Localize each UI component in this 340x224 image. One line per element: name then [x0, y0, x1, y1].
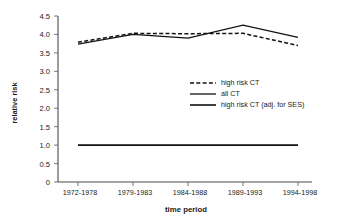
series-line-high-risk-ct: [78, 33, 298, 45]
y-tick-label: 1.5: [39, 123, 50, 132]
x-tick-label: 1979-1983: [118, 188, 152, 197]
y-tick-label: 1.0: [39, 141, 50, 150]
x-axis-ticks: [78, 182, 298, 186]
series-line-all-ct: [78, 25, 298, 44]
x-axis-tick-labels: 1972-1978 1979-1983 1984-1988 1989-1993 …: [63, 188, 317, 197]
x-tick-label: 1972-1978: [63, 188, 97, 197]
x-axis-title: time period: [165, 205, 207, 214]
y-tick-label: 4.0: [39, 30, 50, 39]
chart-figure: relative risk 0 0.5 1.0 1.5 2.0 2.5 3.0 …: [0, 0, 340, 224]
y-tick-label: 0.5: [39, 160, 50, 169]
legend-label-high-risk-ct: high risk CT: [221, 78, 260, 87]
plot-series-group: [78, 25, 298, 145]
chart-canvas: relative risk 0 0.5 1.0 1.5 2.0 2.5 3.0 …: [0, 0, 340, 224]
legend-label-all-ct: all CT: [221, 89, 240, 98]
y-tick-label: 0: [46, 178, 50, 187]
legend-label-high-risk-ct-adj-ses: high risk CT (adj. for SES): [221, 100, 304, 109]
x-tick-label: 1994-1998: [283, 188, 317, 197]
y-tick-label: 4.5: [39, 12, 50, 21]
chart-legend: high risk CT all CT high risk CT (adj. f…: [190, 78, 304, 109]
y-axis-ticks: [54, 16, 58, 182]
y-tick-label: 2.5: [39, 86, 50, 95]
y-tick-label: 2.0: [39, 104, 50, 113]
y-tick-label: 3.0: [39, 67, 50, 76]
y-axis-tick-labels: 0 0.5 1.0 1.5 2.0 2.5 3.0 3.5 4.0 4.5: [39, 12, 50, 187]
y-tick-label: 3.5: [39, 49, 50, 58]
x-tick-label: 1984-1988: [173, 188, 207, 197]
x-tick-label: 1989-1993: [228, 188, 262, 197]
y-axis-title: relative risk: [10, 82, 19, 124]
